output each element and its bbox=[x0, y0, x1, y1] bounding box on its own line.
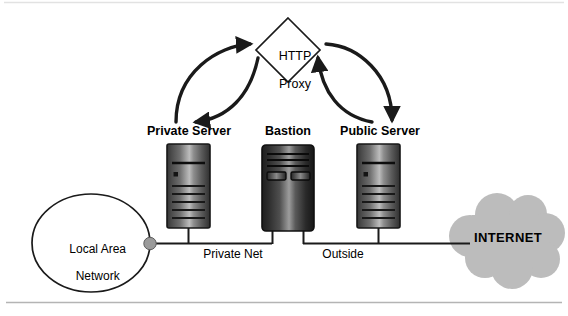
arrow-public-to-proxy bbox=[318, 58, 372, 122]
arrow-private-to-proxy bbox=[176, 44, 250, 122]
public-server-icon bbox=[357, 144, 400, 228]
arrow-proxy-to-private bbox=[196, 58, 258, 122]
http-proxy-diamond bbox=[256, 18, 320, 82]
diagram-canvas bbox=[0, 0, 568, 316]
lan-ellipse bbox=[32, 194, 150, 292]
internet-cloud bbox=[449, 193, 565, 289]
network-diagram: HTTP Proxy Private Server Bastion Public… bbox=[0, 0, 568, 316]
arrow-proxy-to-public bbox=[326, 44, 392, 120]
lan-junction-dot bbox=[144, 237, 156, 249]
bastion-icon bbox=[262, 145, 314, 231]
private-server-icon bbox=[167, 144, 210, 228]
